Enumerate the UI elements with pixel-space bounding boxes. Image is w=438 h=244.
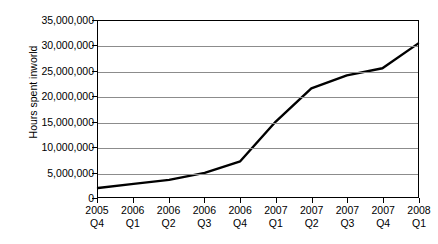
x-axis-tick bbox=[419, 198, 420, 203]
y-axis-tick bbox=[92, 20, 97, 21]
y-axis-tick-label: 35,000,000 bbox=[16, 15, 94, 25]
y-axis-tick-label: 15,000,000 bbox=[16, 117, 94, 127]
y-axis-tick-label: 20,000,000 bbox=[16, 91, 94, 101]
gridline bbox=[98, 46, 418, 47]
y-axis-tick bbox=[92, 122, 97, 123]
x-axis-tick-label-year: 2008 bbox=[397, 204, 438, 217]
y-axis-tick-label: 0 bbox=[16, 193, 94, 203]
x-axis-tick-labels: 2005Q42006Q12006Q22006Q32006Q42007Q12007… bbox=[0, 204, 438, 244]
plot-area bbox=[97, 20, 419, 198]
y-axis-tick-label: 10,000,000 bbox=[16, 142, 94, 152]
gridline bbox=[98, 97, 418, 98]
gridline bbox=[98, 72, 418, 73]
x-axis-tick bbox=[169, 198, 170, 203]
gridline bbox=[98, 123, 418, 124]
y-axis-tick-label: 25,000,000 bbox=[16, 66, 94, 76]
x-axis-tick bbox=[276, 198, 277, 203]
x-axis-tick bbox=[347, 198, 348, 203]
x-axis-tick bbox=[312, 198, 313, 203]
y-axis-tick bbox=[92, 147, 97, 148]
series-polyline bbox=[98, 44, 418, 188]
x-axis-tick bbox=[383, 198, 384, 203]
x-axis-tick bbox=[240, 198, 241, 203]
x-axis-tick bbox=[204, 198, 205, 203]
line-chart: Hours spent inworld 05,000,00010,000,000… bbox=[0, 0, 438, 244]
gridline bbox=[98, 174, 418, 175]
gridline bbox=[98, 148, 418, 149]
y-axis-tick-label: 30,000,000 bbox=[16, 40, 94, 50]
x-axis-tick-label: 2008Q1 bbox=[397, 204, 438, 230]
x-axis-tick bbox=[97, 198, 98, 203]
x-axis-tick-label-quarter: Q1 bbox=[397, 217, 438, 230]
y-axis-tick-label: 5,000,000 bbox=[16, 168, 94, 178]
y-axis-tick bbox=[92, 71, 97, 72]
y-axis-tick bbox=[92, 96, 97, 97]
y-axis-tick bbox=[92, 173, 97, 174]
y-axis-tick bbox=[92, 45, 97, 46]
x-axis-tick bbox=[133, 198, 134, 203]
